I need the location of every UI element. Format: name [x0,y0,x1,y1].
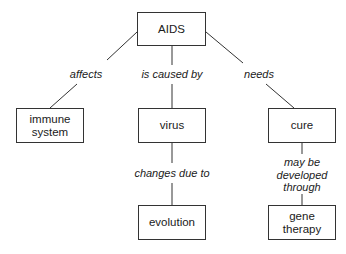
edge-label-line-2: developed [277,169,328,182]
line-aids-affects [107,32,137,60]
node-virus: virus [138,108,206,143]
line-aids-needs [206,32,243,63]
node-cure-label: cure [291,119,313,132]
edge-label-may-be-developed-through: may be developed through [277,156,328,194]
node-gene-label: gene therapy [279,210,325,236]
edge-label-line-1: may be [277,156,328,169]
edge-label-needs: needs [244,68,274,81]
node-immune-system: immune system [16,108,84,143]
edge-label-changes-due-to: changes due to [134,167,209,180]
line-affects-immune [50,84,77,108]
node-immune-label: immune system [23,113,77,139]
line-needs-cure [266,84,294,108]
node-aids: AIDS [137,12,206,46]
node-evolution: evolution [138,205,206,240]
node-gene-therapy: gene therapy [268,205,336,240]
node-aids-label: AIDS [158,23,185,36]
node-evolution-label: evolution [149,216,195,229]
edge-label-line-3: through [277,181,328,194]
node-cure: cure [268,108,336,143]
edge-label-affects: affects [70,68,102,81]
edge-label-is-caused-by: is caused by [141,68,202,81]
node-virus-label: virus [160,119,184,132]
